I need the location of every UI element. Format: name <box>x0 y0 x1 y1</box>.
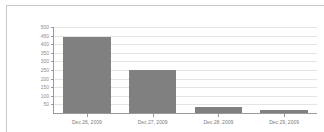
x-tick-label: Dec 26, 2009 <box>72 119 102 125</box>
x-tick-label: Dec 28, 2009 <box>204 119 234 125</box>
x-tick-mark <box>87 113 88 117</box>
y-tick-mark <box>51 70 54 71</box>
y-tick-mark <box>51 96 54 97</box>
bar <box>129 70 176 113</box>
y-tick-mark <box>51 104 54 105</box>
x-tick-mark <box>218 113 219 117</box>
y-tick-mark <box>51 61 54 62</box>
y-tick-mark <box>51 44 54 45</box>
x-tick-mark <box>153 113 154 117</box>
chart-frame: 50100150200250300350400450500 Dec 26, 20… <box>6 5 324 132</box>
y-tick-label: 100 <box>41 93 49 98</box>
y-tick-label: 350 <box>41 50 49 55</box>
x-tick-label: Dec 29, 2009 <box>269 119 299 125</box>
bar <box>63 37 110 113</box>
y-tick-label: 250 <box>41 68 49 73</box>
plot-area: 50100150200250300350400450500 Dec 26, 20… <box>53 27 317 114</box>
y-tick-label: 500 <box>41 25 49 30</box>
y-tick-mark <box>51 27 54 28</box>
x-tick-label: Dec 27, 2009 <box>138 119 168 125</box>
y-tick-mark <box>51 79 54 80</box>
y-tick-label: 150 <box>41 85 49 90</box>
gridline <box>54 27 317 28</box>
y-tick-label: 300 <box>41 59 49 64</box>
y-tick-label: 400 <box>41 42 49 47</box>
y-tick-label: 450 <box>41 33 49 38</box>
y-tick-mark <box>51 53 54 54</box>
x-tick-mark <box>284 113 285 117</box>
y-tick-mark <box>51 87 54 88</box>
y-tick-mark <box>51 36 54 37</box>
y-tick-label: 200 <box>41 76 49 81</box>
chart-screenshot: 50100150200250300350400450500 Dec 26, 20… <box>0 0 324 132</box>
y-tick-label: 50 <box>43 102 49 107</box>
